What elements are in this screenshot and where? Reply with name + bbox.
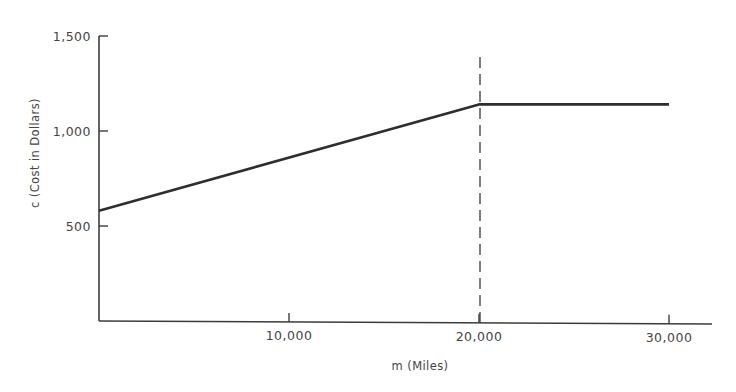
y-axis-title: c (Cost in Dollars)	[28, 98, 42, 208]
x-tick-label: 20,000	[456, 329, 503, 344]
cost-vs-miles-chart: 5001,0001,500 10,00020,00030,000 c (Cost…	[0, 0, 736, 392]
y-tick-label: 1,000	[53, 124, 91, 139]
data-series	[99, 104, 669, 210]
y-tick-label: 1,500	[53, 29, 91, 44]
axes	[99, 36, 712, 324]
y-tick-label: 500	[66, 219, 91, 234]
x-axis	[99, 321, 712, 324]
cost-line	[99, 104, 669, 210]
x-tick-label: 10,000	[266, 328, 313, 343]
x-ticks: 10,00020,00030,000	[266, 313, 693, 345]
x-axis-title: m (Miles)	[392, 359, 449, 373]
x-tick-label: 30,000	[646, 330, 693, 345]
